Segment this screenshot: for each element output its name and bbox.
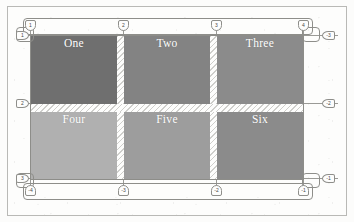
column-line-badge-minus-2[interactable]: -2 [211,185,222,196]
grid-overlay: One Two Three Four Five Six [31,36,303,179]
column-line-badge-minus-1[interactable]: -1 [298,185,309,196]
column-line-badge-4[interactable]: 4 [298,20,309,31]
grid-cell-label: Four [63,113,86,126]
row-line-badge-2[interactable]: 2 [16,99,29,108]
row-line-badge-1[interactable]: 1 [16,31,29,40]
row-line-badge-3[interactable]: 3 [16,174,29,183]
grid-cell-label: Three [246,37,274,50]
row-line-badge-minus-3[interactable]: -3 [322,31,335,40]
grid-cell-two[interactable]: Two [124,36,210,104]
grid-cell-label: Two [156,37,177,50]
grid-cell-label: One [64,37,84,50]
column-line-badge-1[interactable]: 1 [25,20,36,31]
column-line-badge-2[interactable]: 2 [118,20,129,31]
grid-cell-label: Six [252,113,268,126]
row-line-badge-minus-1[interactable]: -1 [322,174,335,183]
grid-cell-four[interactable]: Four [31,112,117,180]
column-line-badge-3[interactable]: 3 [211,20,222,31]
column-line-badge-minus-3[interactable]: -3 [118,185,129,196]
grid-cell-five[interactable]: Five [124,112,210,180]
row-line-badge-minus-2[interactable]: -2 [322,99,335,108]
grid-cell-three[interactable]: Three [217,36,303,104]
grid-cell-six[interactable]: Six [217,112,303,180]
figure-canvas: One Two Three Four Five Six 1 2 3 4 -4 -… [0,0,354,222]
column-line-badge-minus-4[interactable]: -4 [25,185,36,196]
grid-container: One Two Three Four Five Six [31,36,303,179]
grid-cell-one[interactable]: One [31,36,117,104]
grid-cell-label: Five [156,113,178,126]
